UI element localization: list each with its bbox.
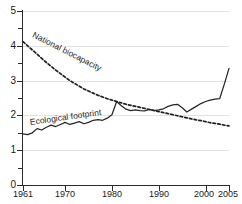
y-tick-3p5 (18, 63, 22, 64)
y-tick-label-5: 5 (2, 6, 16, 16)
gridline-5 (23, 11, 229, 12)
y-tick-label-1: 1 (2, 145, 16, 155)
y-axis-line (22, 10, 23, 186)
chart-container: 5 4 3 2 1 0 1961 1970 1980 1990 2000 200… (0, 0, 242, 204)
x-tick-label-1970: 1970 (51, 189, 79, 199)
x-tick-label-1961: 1961 (9, 189, 37, 199)
y-tick-2 (17, 115, 22, 116)
gridline-1 (23, 150, 229, 151)
y-tick-5 (17, 11, 22, 12)
y-tick-1 (17, 150, 22, 151)
y-tick-3 (17, 81, 22, 82)
gridline-3 (23, 81, 229, 82)
y-tick-label-2: 2 (2, 110, 16, 120)
y-tick-2p5 (18, 98, 22, 99)
y-tick-label-4: 4 (2, 41, 16, 51)
x-tick-label-1990: 1990 (145, 189, 173, 199)
y-tick-label-3: 3 (2, 76, 16, 86)
x-tick-label-2005: 2005 (214, 189, 242, 199)
y-tick-0 (17, 185, 22, 186)
y-tick-4p5 (18, 28, 22, 29)
y-tick-1p5 (18, 133, 22, 134)
plot-area (23, 11, 229, 185)
y-tick-0p5 (18, 168, 22, 169)
x-tick-label-1980: 1980 (98, 189, 126, 199)
x-axis-line (22, 185, 230, 186)
y-tick-4 (17, 46, 22, 47)
y-axis-labels: 5 4 3 2 1 0 (0, 0, 16, 204)
